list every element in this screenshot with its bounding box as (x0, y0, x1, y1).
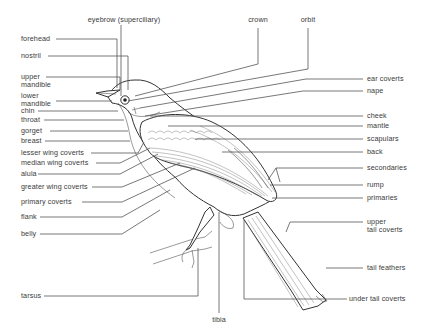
label-nape: nape (367, 87, 383, 95)
label-primary-coverts: primary coverts (21, 198, 72, 206)
label-back: back (367, 148, 383, 156)
label-throat: throat (21, 116, 40, 124)
label-lesser-wing-coverts: lesser wing coverts (21, 149, 84, 157)
label-secondaries: secondaries (367, 164, 407, 172)
label-chin: chin (21, 107, 35, 115)
label-nostril: nostril (21, 52, 41, 60)
label-gorget: gorget (21, 127, 42, 135)
label-forehead: forehead (21, 35, 50, 43)
label-flank: flank (21, 213, 37, 221)
label-tail-feathers: tail feathers (367, 264, 405, 272)
label-under-tail-coverts: under tail coverts (349, 295, 406, 303)
label-alula: alula (21, 170, 37, 178)
label-orbit: orbit (301, 16, 315, 24)
label-rump: rump (367, 181, 384, 189)
perch-branch (150, 231, 212, 264)
label-median-wing-coverts: median wing coverts (21, 159, 88, 167)
label-scapulars: scapulars (367, 135, 399, 143)
label-breast: breast (21, 137, 42, 145)
label-mantle: mantle (367, 122, 389, 130)
legs (182, 207, 234, 268)
label-tarsus: tarsus (21, 292, 41, 300)
label-ear-coverts: ear coverts (367, 75, 404, 83)
label-primaries: primaries (367, 194, 397, 202)
label-greater-wing-coverts: greater wing coverts (21, 183, 88, 191)
bird-anatomy-diagram: eyebrow (superciliary) crown orbit foreh… (0, 0, 430, 335)
label-crown: crown (248, 16, 268, 24)
label-belly: belly (21, 230, 36, 238)
label-upper-tail-coverts: upper tail coverts (367, 218, 403, 234)
label-upper-mandible: upper mandible (21, 73, 51, 89)
label-eyebrow: eyebrow (superciliary) (88, 16, 161, 24)
label-upper-mandible-line2: mandible (21, 80, 51, 89)
label-upper-tail-coverts-line2: tail coverts (367, 225, 403, 234)
tail (243, 212, 327, 310)
label-cheek: cheek (367, 112, 387, 120)
bird-illustration (0, 0, 430, 335)
label-tibia: tibia (212, 316, 226, 324)
